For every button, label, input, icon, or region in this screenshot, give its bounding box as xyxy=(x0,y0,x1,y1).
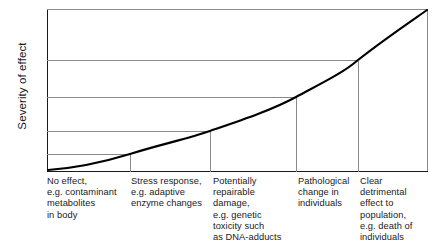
chart-svg xyxy=(47,9,428,172)
category-label-detrimental-effect: Clear detrimental effect to population, … xyxy=(360,176,428,243)
category-line: Potentially xyxy=(213,176,297,187)
category-line: as DNA-adducts xyxy=(213,232,297,243)
category-label-stress-response: Stress response, e.g. adaptive enzyme ch… xyxy=(131,176,213,210)
category-line: e.g. death of xyxy=(360,221,428,232)
category-line: effect to xyxy=(360,198,428,209)
category-line: Clear xyxy=(360,176,428,187)
category-label-pathological-change: Pathological change in individuals xyxy=(298,176,360,210)
category-line: individuals xyxy=(360,232,428,243)
category-line: e.g. adaptive xyxy=(131,187,213,198)
category-line: No effect, xyxy=(47,176,127,187)
category-line: population, xyxy=(360,210,428,221)
y-axis-label: Severity of effect xyxy=(0,0,44,172)
category-line: metabolites xyxy=(47,198,127,209)
category-line: detrimental xyxy=(360,187,428,198)
category-labels: No effect, e.g. contaminant metabolites … xyxy=(47,176,428,252)
category-line: e.g. genetic xyxy=(213,210,297,221)
category-line: enzyme changes xyxy=(131,198,213,209)
y-axis-label-text: Severity of effect xyxy=(16,42,28,129)
category-line: change in xyxy=(298,187,360,198)
severity-curve xyxy=(48,10,427,170)
category-label-no-effect: No effect, e.g. contaminant metabolites … xyxy=(47,176,127,221)
category-line: damage, xyxy=(213,198,297,209)
category-line: in body xyxy=(47,210,127,221)
category-line: repairable xyxy=(213,187,297,198)
category-line: Stress response, xyxy=(131,176,213,187)
chart-figure: Severity of effect No effect, e.g. xyxy=(0,0,435,252)
plot-area xyxy=(47,9,428,172)
category-line: e.g. contaminant xyxy=(47,187,127,198)
category-line: toxicity such xyxy=(213,221,297,232)
category-line: individuals xyxy=(298,198,360,209)
category-label-repairable-damage: Potentially repairable damage, e.g. gene… xyxy=(213,176,297,243)
category-line: Pathological xyxy=(298,176,360,187)
